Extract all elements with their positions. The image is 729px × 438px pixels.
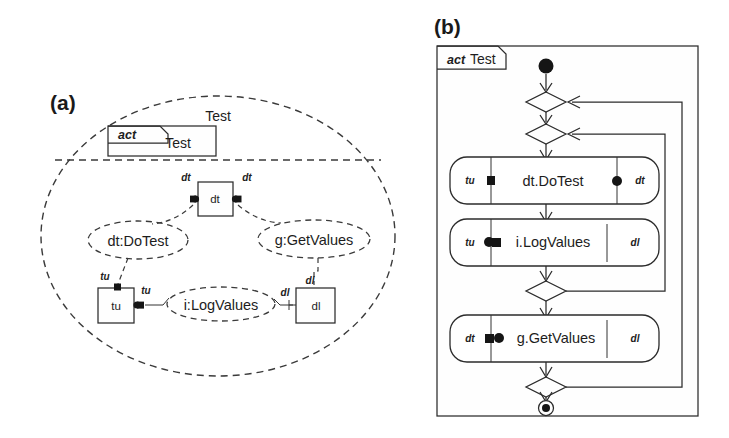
usecase-getvalues: g:GetValues <box>258 220 370 258</box>
panel-a-label: (a) <box>50 91 76 114</box>
component-dt-right-port-socket <box>235 196 242 203</box>
action-dotest: tu dt.DoTest dt <box>450 157 659 204</box>
usecase-logvalues-label: i:LogValues <box>184 297 259 313</box>
assoc-dt-to-getvalues <box>238 205 281 223</box>
panel-a: (a) Test act Test dt <box>41 91 395 376</box>
final-node <box>539 401 554 416</box>
component-tu-right-port-label: tu <box>141 285 150 296</box>
assoc-getvalues-to-dl <box>314 258 318 285</box>
connector-logvalues-dl <box>274 299 293 305</box>
component-tu-top-port <box>114 284 121 291</box>
action-getvalues-right-pin-label: dl <box>631 333 640 344</box>
activity-frame-title: Test <box>470 51 496 67</box>
test-subject-title: Test <box>205 108 231 124</box>
action-getvalues-left-pin-square <box>485 334 494 343</box>
component-dt-label: dt <box>210 193 220 205</box>
component-tu: tu tu tu <box>98 271 151 323</box>
component-dt-right-port-label: dt <box>242 172 252 183</box>
activity-box-keyword: act <box>118 128 137 142</box>
component-dt-left-port-socket <box>190 196 196 203</box>
action-dotest-right-pin-circle <box>612 176 622 186</box>
action-dotest-left-pin-square <box>487 176 495 185</box>
component-dl-left-port-label: dl <box>281 287 290 298</box>
action-logvalues-left-pin-square <box>492 238 501 247</box>
usecase-getvalues-label: g:GetValues <box>275 232 354 248</box>
activity-frame-keyword: act <box>447 53 466 67</box>
panel-a-activity-box: act Test <box>108 126 216 156</box>
action-getvalues-left-pin-circle <box>494 333 504 343</box>
action-logvalues: tu i.LogValues dl <box>450 219 659 266</box>
panel-b-label: (b) <box>434 15 461 38</box>
final-node-inner-dot <box>542 404 550 412</box>
connector-tu-logvalues-kink <box>163 298 169 305</box>
action-logvalues-label: i.LogValues <box>516 234 591 250</box>
usecase-dotest: dt:DoTest <box>88 221 188 259</box>
component-dl: dl dl dl <box>281 275 335 323</box>
action-logvalues-right-pin-label: dl <box>631 237 640 248</box>
component-tu-right-port-socket <box>137 302 144 309</box>
component-dl-label: dl <box>312 300 321 312</box>
action-logvalues-left-pin-label: tu <box>465 237 474 248</box>
usecase-logvalues: i:LogValues <box>167 287 275 321</box>
action-dotest-label: dt.DoTest <box>522 173 583 189</box>
component-dl-top-port-label: dl <box>306 275 315 286</box>
component-tu-top-port-label: tu <box>100 271 109 282</box>
component-dt-left-port-label: dt <box>181 172 191 183</box>
action-dotest-right-pin-label: dt <box>635 175 645 186</box>
figure-canvas: (a) Test act Test dt <box>0 0 729 438</box>
component-tu-label: tu <box>111 300 121 312</box>
action-getvalues-left-pin-label: dt <box>465 333 475 344</box>
figure-svg: (a) Test act Test dt <box>0 0 729 438</box>
action-getvalues-label: g.GetValues <box>517 330 596 346</box>
action-dotest-left-pin-label: tu <box>465 175 474 186</box>
panel-b: (b) act Test <box>434 15 698 416</box>
usecase-dotest-label: dt:DoTest <box>107 233 168 249</box>
assoc-dt-to-dotest <box>152 205 193 224</box>
action-getvalues: dt g.GetValues dl <box>450 315 659 362</box>
assoc-dotest-to-tu <box>118 258 128 284</box>
initial-node <box>539 59 554 74</box>
activity-box-label: Test <box>165 135 191 151</box>
component-dt: dt dt dt <box>181 172 252 216</box>
